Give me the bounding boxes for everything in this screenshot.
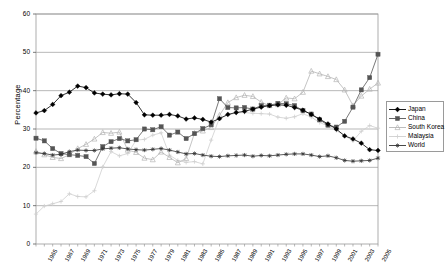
legend-item-world[interactable]: World <box>389 140 440 149</box>
plot-area <box>0 0 448 274</box>
legend-item-malaysia[interactable]: Malaysia <box>389 131 440 140</box>
legend-label: South Korea <box>406 122 444 131</box>
chart-legend: JapanChinaSouth KoreaMalaysiaWorld <box>386 101 444 152</box>
y-tick-label: 30 <box>8 125 30 132</box>
y-tick-label: 10 <box>8 202 30 209</box>
y-tick-label: 40 <box>8 87 30 94</box>
legend-marker-icon <box>389 131 406 140</box>
legend-item-south-korea[interactable]: South Korea <box>389 122 440 131</box>
legend-label: World <box>406 140 425 149</box>
legend-marker-icon <box>389 104 406 113</box>
legend-item-japan[interactable]: Japan <box>389 104 440 113</box>
legend-label: Malaysia <box>406 131 434 140</box>
y-tick-label: 50 <box>8 48 30 55</box>
legend-marker-icon <box>389 113 406 122</box>
legend-label: China <box>406 113 425 122</box>
y-tick-label: 20 <box>8 163 30 170</box>
legend-marker-icon <box>389 140 406 149</box>
legend-item-china[interactable]: China <box>389 113 440 122</box>
y-tick-label: 60 <box>8 10 30 17</box>
line-chart: Percentage 0102030405060 196519671969197… <box>0 0 448 274</box>
legend-marker-icon <box>389 122 406 131</box>
legend-label: Japan <box>406 104 426 113</box>
y-tick-label: 0 <box>8 240 30 247</box>
